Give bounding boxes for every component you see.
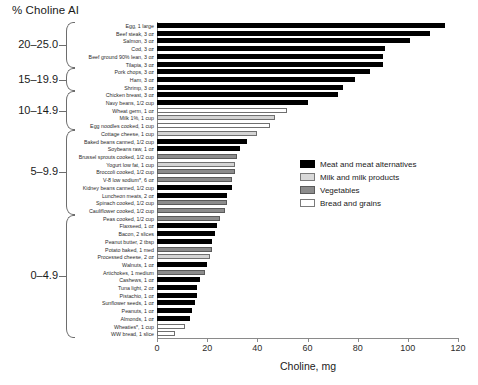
bar <box>157 277 200 282</box>
bar-category-label: Spinach cooked, 1/2 cup <box>96 200 154 206</box>
x-axis-tick-label: 100 <box>400 343 415 353</box>
group-bracket-tick <box>59 111 66 112</box>
group-bracket-tick <box>59 80 66 81</box>
group-bracket-label: 0–4.9 <box>30 269 58 281</box>
bar-category-label: Beef steak, 3 oz <box>116 31 154 37</box>
legend-item: Bread and grains <box>300 197 417 209</box>
bar <box>157 100 308 105</box>
x-axis-tick-label: 80 <box>353 343 363 353</box>
bar-category-label: Egg, 1 large <box>125 23 154 29</box>
bar-category-label: Wheat germ, 1 oz <box>112 108 154 114</box>
bar <box>157 108 287 113</box>
bar-category-label: Navy beans, 1/2 cup <box>106 100 154 106</box>
bar-category-label: Ham, 3 oz <box>130 77 154 83</box>
group-bracket-label: 15–19.9 <box>18 73 58 85</box>
bar-category-label: Walnuts, 1 oz <box>122 262 154 268</box>
x-axis-tick <box>458 338 459 342</box>
bar-category-label: Broccoli cooked, 1/2 cup <box>96 169 154 175</box>
group-bracket <box>66 130 75 215</box>
bar <box>157 23 445 28</box>
bar <box>157 123 270 128</box>
bar-category-label: Soybeans raw, 1 oz <box>108 146 154 152</box>
bar <box>157 131 257 136</box>
bar-category-label: Wheaties*, 1 cup <box>114 324 154 330</box>
bar <box>157 223 217 228</box>
bar-category-label: Potato baked, 1 med <box>105 247 154 253</box>
legend-swatch-veg <box>300 186 315 194</box>
legend-label: Milk and milk products <box>320 173 399 182</box>
group-bracket-label: 20–25.0 <box>18 38 58 50</box>
group-bracket <box>66 91 75 130</box>
legend-swatch-milk <box>300 173 315 181</box>
bar-category-label: Egg noodles cooked, 1 cup <box>90 123 154 129</box>
bar-category-label: Brussel sprouts cooked, 1/2 cup <box>79 154 154 160</box>
bar <box>157 169 235 174</box>
bar-category-label: Cauliflower cooked, 1/2 cup <box>89 208 154 214</box>
legend: Meat and meat alternativesMilk and milk … <box>300 158 417 210</box>
bar-category-label: Yogurt low fat, 1 cup <box>106 162 154 168</box>
bar-category-label: Chicken breast, 3 oz <box>106 92 154 98</box>
bar-category-label: Beef ground 90% lean, 3 oz <box>89 54 154 60</box>
x-axis-tick <box>207 338 208 342</box>
x-axis-tick <box>358 338 359 342</box>
bar <box>157 293 197 298</box>
bar <box>157 316 190 321</box>
bar-category-label: Peanuts, 1 oz <box>122 308 154 314</box>
bar <box>157 216 220 221</box>
bar-category-label: Luncheon meats, 2 oz <box>102 193 154 199</box>
legend-swatch-meat <box>300 160 315 168</box>
group-bracket-tick <box>59 276 66 277</box>
bar <box>157 62 383 67</box>
group-bracket-tick <box>59 172 66 173</box>
bar-category-label: Peas cooked, 1/2 cup <box>103 216 154 222</box>
legend-swatch-bread <box>300 199 315 207</box>
x-axis-tick <box>157 338 158 342</box>
bar <box>157 115 275 120</box>
legend-item: Meat and meat alternatives <box>300 158 417 170</box>
bar <box>157 300 195 305</box>
bar <box>157 185 232 190</box>
bar <box>157 92 338 97</box>
bar <box>157 239 212 244</box>
bar <box>157 200 227 205</box>
bar <box>157 77 355 82</box>
x-axis-tick-label: 20 <box>202 343 212 353</box>
group-bracket-label: 10–14.9 <box>18 104 58 116</box>
bar-category-label: Processed cheese, 2 oz <box>97 254 154 260</box>
bar <box>157 85 343 90</box>
bar-category-label: Salmon, 3 oz <box>123 38 154 44</box>
choline-bar-chart: % Choline AI 20–25.015–19.910–14.95–9.90… <box>0 0 478 385</box>
bar-category-label: Tilapia, 3 oz <box>126 62 154 68</box>
bar-category-label: Bacon, 2 slices <box>118 231 154 237</box>
bar <box>157 254 210 259</box>
x-axis-tick-label: 0 <box>154 343 159 353</box>
bar-category-label: Kidney beans canned, 1/2 cup <box>83 185 154 191</box>
bar <box>157 247 212 252</box>
x-axis-tick <box>308 338 309 342</box>
bar <box>157 270 205 275</box>
bar <box>157 324 185 329</box>
chart-title: % Choline AI <box>12 4 79 16</box>
bar <box>157 54 383 59</box>
bar-category-label: Almonds, 1 oz <box>120 316 154 322</box>
bar-category-label: Milk 1%, 1 cup <box>120 115 154 121</box>
bar-category-label: Flaxseed, 1 oz <box>120 223 154 229</box>
group-bracket <box>66 68 75 91</box>
bar <box>157 193 227 198</box>
bar <box>157 308 192 313</box>
bar <box>157 154 237 159</box>
x-axis-title: Choline, mg <box>157 360 459 372</box>
bar-category-label: Pistachio, 1 oz <box>120 293 154 299</box>
bar <box>157 177 232 182</box>
group-bracket <box>66 22 75 68</box>
bar-category-label: Pork chops, 3 oz <box>115 69 154 75</box>
group-bracket-tick <box>59 45 66 46</box>
bar <box>157 162 235 167</box>
bar-category-label: Cashews, 1 oz <box>119 277 154 283</box>
bar <box>157 208 225 213</box>
bar <box>157 262 207 267</box>
x-axis-tick <box>408 338 409 342</box>
x-axis-tick-label: 120 <box>450 343 465 353</box>
group-bracket <box>66 215 75 338</box>
group-bracket-label: 5–9.9 <box>30 165 58 177</box>
